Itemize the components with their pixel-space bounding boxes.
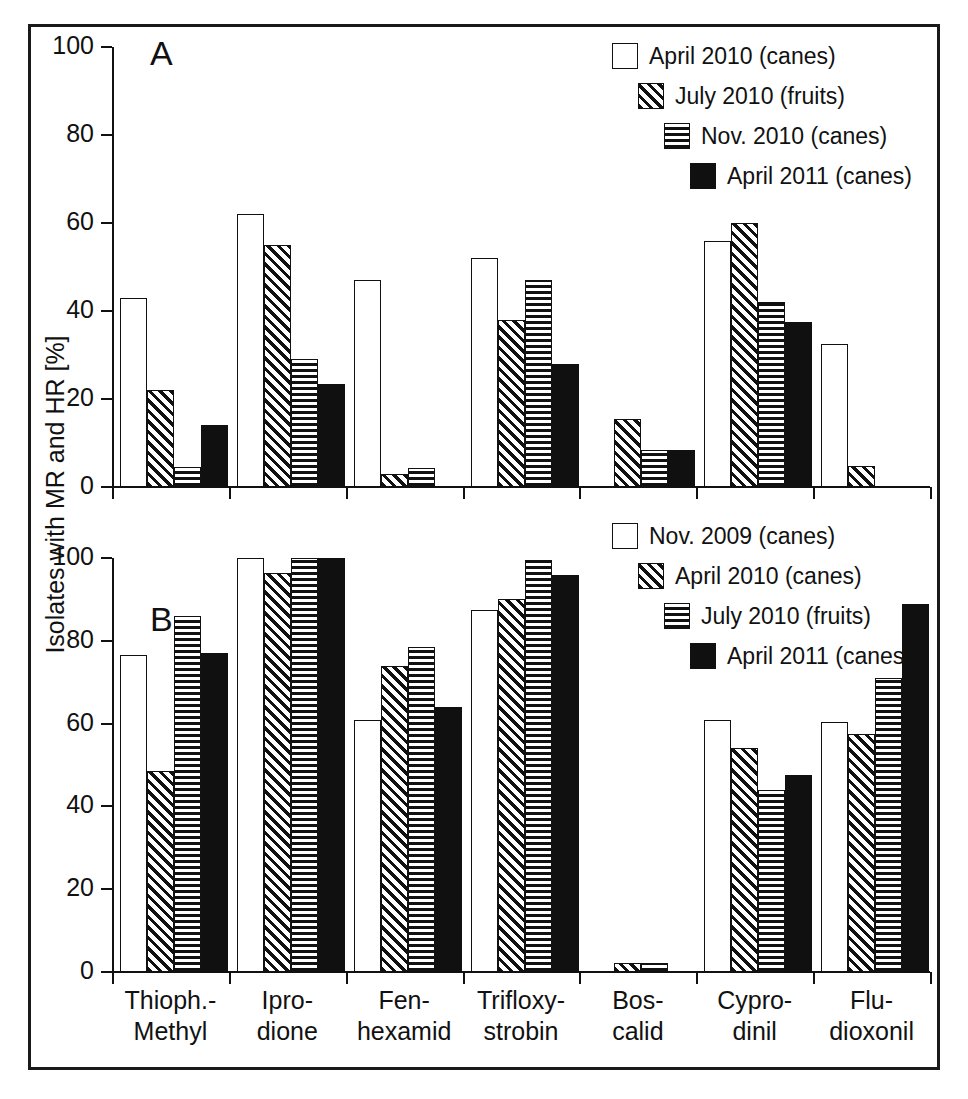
legend-item: April 2010 (canes) <box>612 556 912 596</box>
legend-swatch-icon <box>612 523 638 549</box>
bar <box>525 560 552 972</box>
bar <box>471 610 498 972</box>
bar <box>435 707 462 972</box>
bar <box>552 575 579 972</box>
bar <box>641 963 668 972</box>
y-tick-label: 40 <box>66 790 94 818</box>
bar <box>201 653 228 972</box>
bar <box>264 573 291 973</box>
bar <box>704 720 731 973</box>
y-tick-label: 60 <box>66 708 94 736</box>
bar <box>354 720 381 973</box>
y-tick: 40 <box>101 805 112 807</box>
x-tick <box>463 972 465 984</box>
legend-swatch-icon <box>690 643 716 669</box>
x-tick <box>229 972 231 984</box>
legend-item: July 2010 (fruits) <box>612 596 912 636</box>
bar <box>614 963 641 972</box>
legend-item: April 2011 (canes) <box>612 636 912 676</box>
bar <box>875 678 902 972</box>
y-tick-label: 0 <box>80 956 94 984</box>
bar <box>237 558 264 972</box>
x-category-label: Flu-dioxonil <box>797 985 947 1047</box>
x-axis-category-labels: Thioph.-MethylIpro-dioneFen-hexamidTrifl… <box>112 985 930 1065</box>
y-tick-label: 100 <box>52 542 94 570</box>
legend-item: Nov. 2009 (canes) <box>612 516 912 556</box>
x-category-label-line2: dioxonil <box>797 1016 947 1047</box>
x-tick <box>346 972 348 984</box>
x-tick <box>930 972 932 984</box>
y-tick-label: 80 <box>66 625 94 653</box>
legend-label: April 2010 (canes) <box>675 563 862 589</box>
bar <box>147 771 174 972</box>
bar <box>381 666 408 972</box>
y-tick: 80 <box>101 640 112 642</box>
bar <box>758 790 785 972</box>
y-tick: 60 <box>101 723 112 725</box>
legend-label: July 2010 (fruits) <box>701 603 871 629</box>
panel-b-legend: Nov. 2009 (canes)April 2010 (canes)July … <box>612 516 912 676</box>
legend-label: Nov. 2009 (canes) <box>649 523 835 549</box>
figure-root: Isolates with MR and HR [%] A 0204060801… <box>0 0 968 1099</box>
y-tick: 100 <box>101 557 112 559</box>
legend-label: April 2011 (canes) <box>727 643 912 669</box>
x-tick <box>813 972 815 984</box>
x-tick <box>579 972 581 984</box>
panel-b: B 020406080100 Nov. 2009 (canes)April 20… <box>0 0 968 1010</box>
x-tick <box>696 972 698 984</box>
bar <box>174 616 201 972</box>
panel-b-y-axis <box>112 558 114 972</box>
x-tick <box>112 972 114 984</box>
bar <box>785 775 812 972</box>
legend-swatch-icon <box>638 563 664 589</box>
legend-swatch-icon <box>664 603 690 629</box>
bar <box>498 599 525 972</box>
bar <box>318 558 345 972</box>
bar <box>291 558 318 972</box>
bar <box>408 647 435 972</box>
y-tick: 20 <box>101 888 112 890</box>
y-tick: 0 <box>101 971 112 973</box>
bar <box>821 722 848 973</box>
y-tick-label: 20 <box>66 873 94 901</box>
bar <box>848 734 875 972</box>
x-category-label-line1: Flu- <box>797 985 947 1016</box>
bar <box>120 655 147 972</box>
bar <box>731 748 758 972</box>
